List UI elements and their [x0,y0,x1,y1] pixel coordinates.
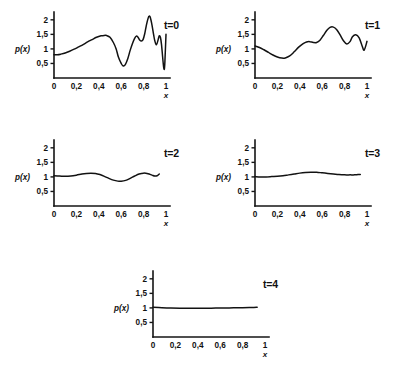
panel-t3: 21,510,5p(x)00,20,40,60,81x t=3 [215,134,385,234]
y-tick-label: 2 [244,144,249,153]
y-axis-label: p(x) [14,45,30,54]
panel-t0-plot: 21,510,5p(x)00,20,40,60,81x [14,6,184,106]
y-tick-label: 0,5 [238,59,250,68]
y-tick-label: 2 [43,16,48,25]
x-tick-label: 0,6 [116,82,128,91]
y-axis-label: p(x) [215,45,231,54]
y-tick-label: 0,5 [37,187,49,196]
panel-t4-plot: 21,510,5p(x)00,20,40,60,81x [113,265,283,365]
y-tick-label: 2 [244,16,249,25]
panel-t4: 21,510,5p(x)00,20,40,60,81x t=4 [113,265,283,365]
x-tick-label: 0,4 [93,210,105,219]
x-tick-label: 0 [253,210,258,219]
y-tick-label: 1,5 [238,158,250,167]
x-axis-label: x [163,91,169,100]
panel-t4-time-label: t=4 [263,278,278,290]
y-tick-label: 0,5 [37,59,49,68]
y-tick-label: 1 [43,45,48,54]
panel-t3-time-label: t=3 [365,147,380,159]
x-tick-label: 1 [365,210,370,219]
diffusion-figure: 21,510,5p(x)00,20,40,60,81x t=0 21,510,5… [0,0,397,378]
x-tick-label: 0 [151,341,156,350]
x-axis-label: x [364,219,370,228]
x-axis-label: x [364,91,370,100]
x-tick-label: 0,2 [272,210,284,219]
x-tick-label: 1 [164,82,169,91]
y-axis-label: p(x) [14,173,30,182]
y-tick-label: 2 [43,144,48,153]
x-tick-label: 0 [52,82,57,91]
y-tick-label: 1,5 [37,158,49,167]
x-tick-label: 0,2 [71,82,83,91]
panel-t0-time-label: t=0 [164,19,179,31]
x-tick-label: 0,8 [138,210,150,219]
y-tick-label: 2 [142,275,147,284]
y-tick-label: 1 [43,173,48,182]
x-tick-label: 0 [253,82,258,91]
panel-t3-plot: 21,510,5p(x)00,20,40,60,81x [215,134,385,234]
y-tick-label: 1,5 [37,30,49,39]
x-tick-label: 0,6 [116,210,128,219]
panel-t1-time-label: t=1 [365,19,380,31]
x-tick-label: 0,8 [237,341,249,350]
panel-t2-plot: 21,510,5p(x)00,20,40,60,81x [14,134,184,234]
panel-t1-plot: 21,510,5p(x)00,20,40,60,81x [215,6,385,106]
density-curve [255,27,367,58]
x-tick-label: 0,4 [93,82,105,91]
y-tick-label: 1 [244,45,249,54]
y-tick-label: 1 [142,304,147,313]
x-tick-label: 0 [52,210,57,219]
x-tick-label: 0,6 [317,82,329,91]
x-axis-label: x [163,219,169,228]
x-tick-label: 0,2 [71,210,83,219]
density-curve [153,307,257,308]
panel-t0: 21,510,5p(x)00,20,40,60,81x t=0 [14,6,184,106]
x-tick-label: 0,2 [272,82,284,91]
density-curve [255,172,360,177]
x-tick-label: 0,8 [138,82,150,91]
y-tick-label: 0,5 [238,187,250,196]
panel-t1: 21,510,5p(x)00,20,40,60,81x t=1 [215,6,385,106]
x-tick-label: 0,8 [339,82,351,91]
density-curve [54,173,159,181]
y-tick-label: 1,5 [238,30,250,39]
x-tick-label: 0,4 [294,210,306,219]
y-axis-label: p(x) [215,173,231,182]
x-tick-label: 0,2 [170,341,182,350]
panel-t2-time-label: t=2 [164,147,179,159]
x-tick-label: 0,4 [294,82,306,91]
x-axis-label: x [262,350,268,359]
x-tick-label: 1 [263,341,268,350]
panel-t2: 21,510,5p(x)00,20,40,60,81x t=2 [14,134,184,234]
x-tick-label: 0,6 [215,341,227,350]
y-tick-label: 1,5 [136,289,148,298]
x-tick-label: 0,8 [339,210,351,219]
y-axis-label: p(x) [113,304,129,313]
x-tick-label: 0,6 [317,210,329,219]
x-tick-label: 1 [365,82,370,91]
x-tick-label: 1 [164,210,169,219]
y-tick-label: 0,5 [136,318,148,327]
y-tick-label: 1 [244,173,249,182]
density-curve [54,16,166,69]
x-tick-label: 0,4 [192,341,204,350]
